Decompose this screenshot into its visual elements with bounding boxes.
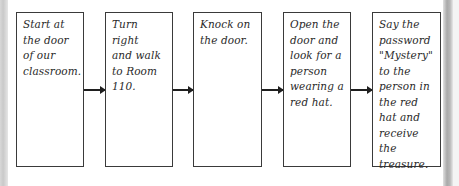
arrow-right-icon (173, 89, 193, 91)
step-text-1: Start at the door of our classroom. (23, 17, 78, 79)
step-box-5: Say the password "Mystery" to the person… (372, 12, 441, 167)
arrow-right-icon (84, 89, 105, 91)
step-box-4: Open the door and look for a person wear… (283, 12, 351, 167)
step-text-3: Knock on the door. (200, 17, 256, 48)
step-text-4: Open the door and look for a person wear… (290, 17, 345, 110)
flowchart: Start at the door of our classroom. Turn… (0, 0, 459, 186)
step-text-2: Turn right and walk to Room 110. (112, 17, 167, 95)
step-text-5: Say the password "Mystery" to the person… (379, 17, 435, 172)
step-box-2: Turn right and walk to Room 110. (105, 12, 173, 167)
step-box-3: Knock on the door. (193, 12, 262, 167)
step-box-1: Start at the door of our classroom. (16, 12, 84, 167)
arrow-right-icon (262, 89, 283, 91)
arrow-right-icon (351, 89, 372, 91)
